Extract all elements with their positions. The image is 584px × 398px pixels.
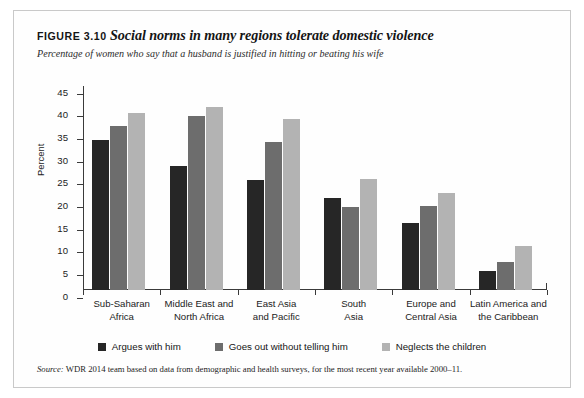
x-tick-4 [392,290,393,295]
bar-group [170,86,223,290]
legend-item[interactable]: Neglects the children [382,341,486,352]
x-axis-category-labels: Sub-SaharanAfricaMiddle East andNorth Af… [83,298,547,332]
chart-axes: 051015202530354045 [83,86,547,298]
bar-group [402,86,455,290]
bar [206,107,223,290]
bar [479,271,496,290]
bar [324,198,341,290]
y-tick-label-30: 30 [57,155,68,166]
bar [128,113,145,290]
bar [110,126,127,290]
y-axis-label: Percent [35,144,46,176]
figure-page: FIGURE 3.10 Social norms in many regions… [0,0,584,398]
bar [283,119,300,290]
bar [92,140,109,290]
bar [170,166,187,290]
bar [420,206,437,290]
x-tick-2 [238,290,239,295]
chart-plot-area: Percent 051015202530354045 Sub-SaharanAf… [37,80,547,315]
y-tick-label-10: 10 [57,245,68,256]
bar-group [479,86,532,290]
figure-number: FIGURE 3.10 [37,30,107,42]
bar [360,179,377,290]
legend-label: Goes out without telling him [229,341,348,352]
y-tick-label-40: 40 [57,109,68,120]
y-tick-label-45: 45 [57,87,68,98]
legend-item[interactable]: Argues with him [98,341,181,352]
x-axis-category-label: Latin America andthe Caribbean [453,298,564,323]
bar [342,207,359,290]
source-note: Source: WDR 2014 team based on data from… [37,364,547,374]
x-tick-5 [470,290,471,295]
source-label: Source: [37,364,64,374]
y-tick-label-20: 20 [57,200,68,211]
figure-title-line: FIGURE 3.10 Social norms in many regions… [37,28,547,44]
category-label-line: Latin America and [453,298,564,311]
y-tick-label-25: 25 [57,177,68,188]
bar-group [92,86,145,290]
x-tick-1 [160,290,161,295]
legend-label: Neglects the children [396,341,486,352]
chart-legend: Argues with himGoes out without telling … [37,341,547,352]
bar-series-container [83,86,547,290]
figure-header: FIGURE 3.10 Social norms in many regions… [37,28,547,59]
bar [497,262,514,290]
legend-item[interactable]: Goes out without telling him [215,341,348,352]
source-text: WDR 2014 team based on data from demogra… [64,364,463,374]
bar-group [324,86,377,290]
legend-swatch-icon [98,343,106,351]
x-tick-0 [83,290,84,295]
y-tick-label-5: 5 [63,268,68,279]
bar [438,193,455,290]
legend-swatch-icon [215,343,223,351]
bar [402,223,419,290]
x-tick-6 [547,290,548,295]
legend-label: Argues with him [112,341,181,352]
bar [515,246,532,290]
y-tick-label-15: 15 [57,223,68,234]
bar [247,180,264,290]
x-tick-3 [315,290,316,295]
page-title: Social norms in many regions tolerate do… [110,27,434,43]
y-tick-label-35: 35 [57,132,68,143]
bar [188,116,205,290]
category-label-line: the Caribbean [453,311,564,324]
legend-swatch-icon [382,343,390,351]
bar-group [247,86,300,290]
bar [265,142,282,290]
figure-subtitle: Percentage of women who say that a husba… [37,48,547,59]
